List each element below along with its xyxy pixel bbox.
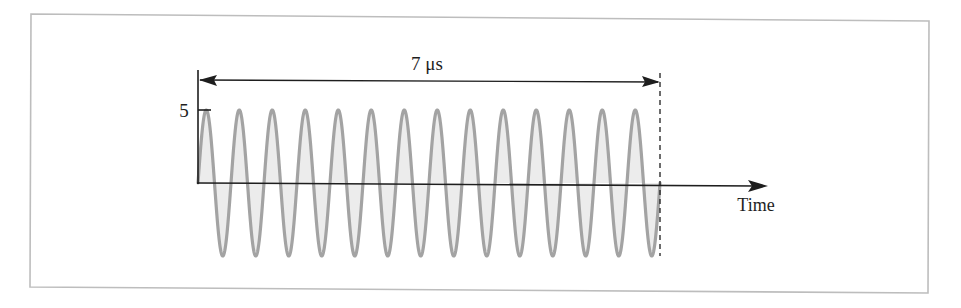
sine-wave-diagram: 5 Time 7 μs (0, 0, 961, 308)
duration-dimension-line (200, 80, 658, 82)
amplitude-label: 5 (179, 100, 189, 121)
time-axis-label: Time (737, 195, 774, 215)
duration-label: 7 μs (411, 53, 443, 74)
figure-frame (30, 14, 929, 293)
